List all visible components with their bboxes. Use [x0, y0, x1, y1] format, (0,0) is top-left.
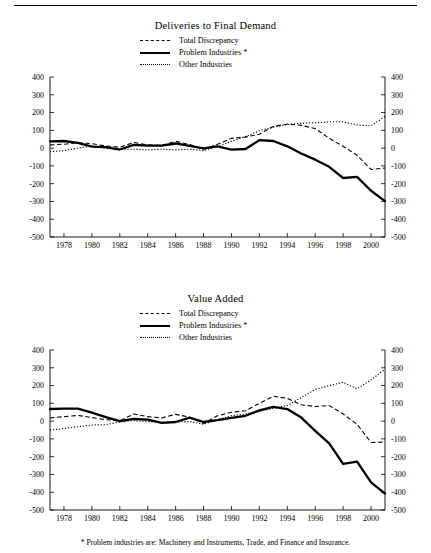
svg-text:1996: 1996 [307, 514, 323, 523]
svg-text:1984: 1984 [140, 514, 156, 523]
legend-label-other-industries: Other Industries [179, 333, 232, 343]
dotted-line-swatch-icon [140, 333, 170, 343]
panel-title-value-added: Value Added [0, 293, 431, 304]
svg-text:-200: -200 [391, 453, 406, 462]
svg-text:-500: -500 [391, 506, 406, 515]
svg-text:1994: 1994 [279, 241, 295, 250]
panel-deliveries-to-final-demand: Deliveries to Final Demand Total Discrep… [0, 20, 431, 275]
svg-text:-200: -200 [391, 180, 406, 189]
solid-line-swatch-icon [140, 321, 170, 331]
svg-text:1978: 1978 [56, 514, 72, 523]
legend-label-problem-industries: Problem Industries * [179, 321, 247, 331]
svg-text:1982: 1982 [112, 241, 128, 250]
svg-text:400: 400 [32, 73, 44, 82]
svg-text:200: 200 [32, 381, 44, 390]
svg-text:100: 100 [391, 399, 403, 408]
svg-text:1994: 1994 [279, 514, 295, 523]
legend-item-total-discrepancy: Total Discrepancy [0, 308, 431, 320]
svg-text:400: 400 [391, 346, 403, 355]
svg-text:1990: 1990 [223, 241, 239, 250]
svg-text:200: 200 [391, 381, 403, 390]
legend-label-total-discrepancy: Total Discrepancy [179, 309, 239, 319]
top-divider-rule [14, 5, 417, 6]
svg-text:2000: 2000 [363, 241, 379, 250]
legend-label-other-industries: Other Industries [179, 60, 232, 70]
svg-text:0: 0 [40, 144, 44, 153]
panel-value-added: Value Added Total Discrepancy Problem In… [0, 293, 431, 538]
plot-area-deliveries: 40040030030020020010010000-100-100-200-2… [0, 71, 431, 263]
svg-text:300: 300 [391, 364, 403, 373]
dotted-line-swatch-icon [140, 60, 170, 70]
legend-value-added: Total Discrepancy Problem Industries * O… [0, 308, 431, 344]
svg-text:-100: -100 [391, 162, 406, 171]
svg-text:1998: 1998 [335, 241, 351, 250]
svg-text:1988: 1988 [196, 514, 212, 523]
legend-item-other-industries: Other Industries [0, 59, 431, 71]
figure-page: Deliveries to Final Demand Total Discrep… [0, 0, 431, 553]
svg-text:0: 0 [391, 417, 395, 426]
svg-text:1992: 1992 [251, 241, 267, 250]
svg-text:1984: 1984 [140, 241, 156, 250]
dashed-line-swatch-icon [140, 309, 170, 319]
svg-text:-500: -500 [29, 233, 44, 242]
svg-text:-400: -400 [29, 215, 44, 224]
svg-text:-300: -300 [391, 470, 406, 479]
svg-text:0: 0 [391, 144, 395, 153]
legend-label-problem-industries: Problem Industries * [179, 48, 247, 58]
svg-text:100: 100 [391, 126, 403, 135]
svg-text:1980: 1980 [84, 514, 100, 523]
legend-item-total-discrepancy: Total Discrepancy [0, 35, 431, 47]
svg-text:1978: 1978 [56, 241, 72, 250]
legend-label-total-discrepancy: Total Discrepancy [179, 36, 239, 46]
legend-item-problem-industries: Problem Industries * [0, 47, 431, 59]
svg-text:100: 100 [32, 126, 44, 135]
svg-text:400: 400 [32, 346, 44, 355]
svg-text:1986: 1986 [168, 241, 184, 250]
svg-text:200: 200 [391, 108, 403, 117]
svg-text:400: 400 [391, 73, 403, 82]
legend-item-other-industries: Other Industries [0, 332, 431, 344]
svg-text:-100: -100 [391, 435, 406, 444]
solid-line-swatch-icon [140, 48, 170, 58]
chart-svg-deliveries: 40040030030020020010010000-100-100-200-2… [0, 71, 431, 263]
svg-text:-300: -300 [29, 470, 44, 479]
svg-text:300: 300 [32, 91, 44, 100]
svg-text:1980: 1980 [84, 241, 100, 250]
svg-text:0: 0 [40, 417, 44, 426]
svg-text:-200: -200 [29, 453, 44, 462]
svg-text:1996: 1996 [307, 241, 323, 250]
svg-text:-400: -400 [391, 215, 406, 224]
svg-text:2000: 2000 [363, 514, 379, 523]
svg-text:1982: 1982 [112, 514, 128, 523]
svg-text:-500: -500 [29, 506, 44, 515]
svg-text:-100: -100 [29, 162, 44, 171]
svg-text:300: 300 [32, 364, 44, 373]
svg-text:200: 200 [32, 108, 44, 117]
panel-title-deliveries: Deliveries to Final Demand [0, 20, 431, 31]
svg-text:1990: 1990 [223, 514, 239, 523]
svg-text:1986: 1986 [168, 514, 184, 523]
svg-text:-500: -500 [391, 233, 406, 242]
svg-text:1992: 1992 [251, 514, 267, 523]
footnote-problem-industries: * Problem industries are: Machinery and … [0, 538, 431, 547]
svg-text:-300: -300 [29, 197, 44, 206]
plot-area-value-added: 40040030030020020010010000-100-100-200-2… [0, 344, 431, 536]
chart-svg-value-added: 40040030030020020010010000-100-100-200-2… [0, 344, 431, 536]
svg-text:1998: 1998 [335, 514, 351, 523]
svg-text:1988: 1988 [196, 241, 212, 250]
legend-item-problem-industries: Problem Industries * [0, 320, 431, 332]
svg-text:-200: -200 [29, 180, 44, 189]
svg-text:-300: -300 [391, 197, 406, 206]
svg-text:300: 300 [391, 91, 403, 100]
svg-text:100: 100 [32, 399, 44, 408]
dashed-line-swatch-icon [140, 36, 170, 46]
svg-text:-100: -100 [29, 435, 44, 444]
svg-text:-400: -400 [391, 488, 406, 497]
svg-text:-400: -400 [29, 488, 44, 497]
legend-deliveries: Total Discrepancy Problem Industries * O… [0, 35, 431, 71]
